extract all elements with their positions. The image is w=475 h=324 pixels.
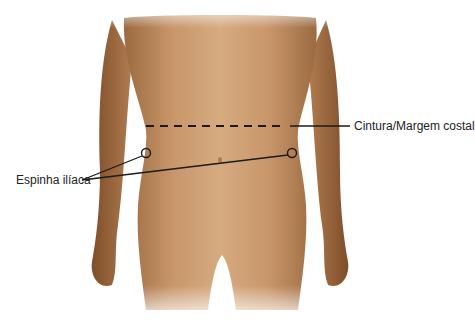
iliac-spine-label: Espinha ilíaca: [16, 173, 91, 187]
navel: [218, 157, 222, 163]
waist-label: Cintura/Margem costal: [354, 119, 475, 133]
right-arm: [92, 20, 132, 286]
